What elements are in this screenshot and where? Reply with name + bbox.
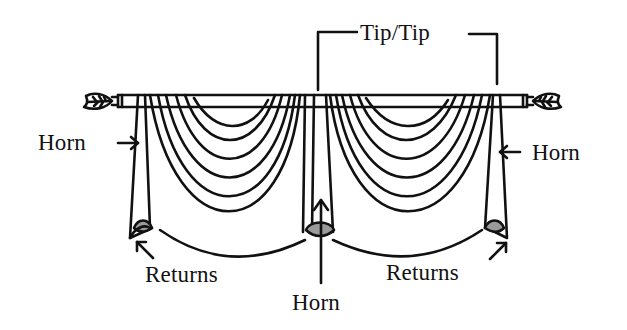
horn-left-arrow-icon [118, 137, 138, 149]
center-jabot [303, 95, 334, 236]
returns-left-label: Returns [145, 263, 218, 286]
left-jabot [130, 95, 152, 238]
returns-right-label: Returns [386, 261, 459, 284]
horn-center-label: Horn [292, 291, 340, 314]
horn-right-arrow-icon [500, 146, 520, 158]
right-finial-icon [527, 94, 561, 109]
left-swag [150, 95, 305, 256]
swag-valance-diagram: Tip/Tip Horn Horn Horn Returns Returns [0, 0, 627, 330]
horn-right-label: Horn [532, 141, 580, 164]
horn-left-label: Horn [38, 131, 86, 154]
returns-left-arrow-icon [137, 242, 153, 258]
right-swag [330, 95, 490, 256]
tip-tip-label: Tip/Tip [360, 21, 430, 44]
right-jabot [485, 95, 507, 238]
returns-right-arrow-icon [490, 243, 506, 259]
horn-center-arrow-icon [314, 200, 328, 283]
left-finial-icon [84, 94, 118, 109]
diagram-drawing [0, 0, 627, 330]
